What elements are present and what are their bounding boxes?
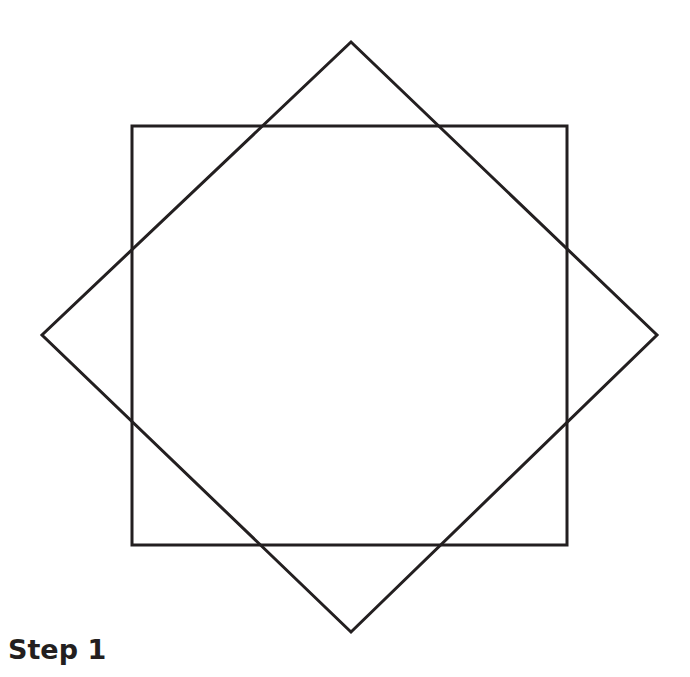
eight-point-star-diagram xyxy=(0,0,690,677)
step-caption: Step 1 xyxy=(8,636,106,663)
